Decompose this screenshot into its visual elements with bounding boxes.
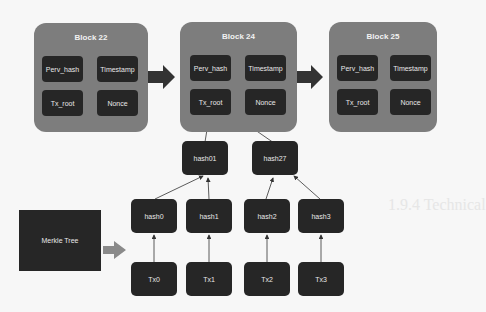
node-hash3: hash3 xyxy=(298,199,344,233)
block-title: Block 24 xyxy=(180,32,297,41)
block-25: Block 25 Perv_hash Timestamp Tx_root Non… xyxy=(329,22,437,132)
field-nonce: Nonce xyxy=(390,89,431,115)
field-nonce: Nonce xyxy=(97,90,138,116)
node-tx0: Tx0 xyxy=(131,262,177,296)
block-22: Block 22 Perv_hash Timestamp Tx_root Non… xyxy=(34,23,148,132)
block-24: Block 24 Perv_hash Timestamp Tx_root Non… xyxy=(180,22,297,132)
field-tx-root: Tx_root xyxy=(337,89,378,115)
arrow-block22-to-24 xyxy=(148,65,175,89)
node-tx3: Tx3 xyxy=(298,262,344,296)
merkle-tree-label: Merkle Tree xyxy=(19,210,101,271)
node-tx2: Tx2 xyxy=(244,262,290,296)
field-nonce: Nonce xyxy=(245,89,286,115)
field-prev-hash: Perv_hash xyxy=(42,56,83,82)
field-timestamp: Timestamp xyxy=(245,55,286,81)
node-hash01: hash01 xyxy=(182,141,228,175)
node-hash2: hash2 xyxy=(244,199,290,233)
field-tx-root: Tx_root xyxy=(190,89,231,115)
arrow-block24-to-25 xyxy=(296,65,323,89)
block-title: Block 22 xyxy=(34,33,148,42)
field-prev-hash: Perv_hash xyxy=(337,55,378,81)
field-tx-root: Tx_root xyxy=(42,90,83,116)
field-timestamp: Timestamp xyxy=(390,55,431,81)
block-title: Block 25 xyxy=(329,32,437,41)
node-hash27: hash27 xyxy=(252,141,298,175)
arrow-merkle-tree xyxy=(103,241,126,259)
field-timestamp: Timestamp xyxy=(97,56,138,82)
field-prev-hash: Perv_hash xyxy=(190,55,231,81)
node-hash0: hash0 xyxy=(131,199,177,233)
node-hash1: hash1 xyxy=(186,199,232,233)
node-tx1: Tx1 xyxy=(186,262,232,296)
